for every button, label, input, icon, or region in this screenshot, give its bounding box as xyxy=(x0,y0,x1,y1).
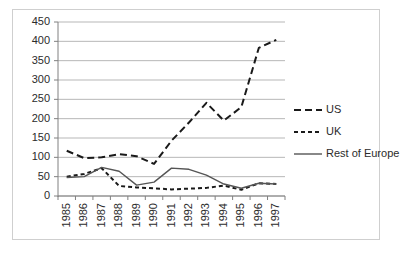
gridlines-group xyxy=(58,22,285,196)
y-tick-marks-group xyxy=(54,22,58,196)
x-tick-label: 1987 xyxy=(96,203,107,227)
x-tick-label: 1989 xyxy=(131,203,142,227)
legend-swatches-group xyxy=(294,110,322,154)
x-tick-label: 1995 xyxy=(235,203,246,227)
y-tick-label: 250 xyxy=(24,93,50,104)
y-tick-label: 100 xyxy=(24,151,50,162)
x-tick-marks-group xyxy=(58,196,285,200)
x-tick-label: 1990 xyxy=(148,203,159,227)
legend-label-rest-of-europe: Rest of Europe xyxy=(326,148,399,159)
x-tick-label: 1993 xyxy=(200,203,211,227)
axis-lines-group xyxy=(58,22,285,197)
x-tick-label: 1991 xyxy=(166,203,177,227)
y-tick-label: 0 xyxy=(24,190,50,201)
y-tick-label: 400 xyxy=(24,35,50,46)
y-tick-label: 200 xyxy=(24,113,50,124)
legend-label-us: US xyxy=(326,104,341,115)
y-tick-label: 350 xyxy=(24,55,50,66)
series-line-rest-of-europe xyxy=(67,167,277,188)
x-tick-label: 1986 xyxy=(78,203,89,227)
y-tick-label: 150 xyxy=(24,132,50,143)
x-tick-label: 1992 xyxy=(183,203,194,227)
x-tick-label: 1988 xyxy=(113,203,124,227)
legend-label-uk: UK xyxy=(326,126,341,137)
y-tick-label: 50 xyxy=(24,171,50,182)
y-tick-label: 300 xyxy=(24,74,50,85)
y-tick-label: 450 xyxy=(24,16,50,27)
line-chart-figure: 450400350300250200150100500 198519861987… xyxy=(0,0,404,257)
data-series-group xyxy=(67,40,277,190)
x-tick-label: 1985 xyxy=(61,203,72,227)
x-tick-label: 1996 xyxy=(253,203,264,227)
x-tick-label: 1997 xyxy=(270,203,281,227)
x-tick-label: 1994 xyxy=(218,203,229,227)
series-line-us xyxy=(67,40,277,164)
